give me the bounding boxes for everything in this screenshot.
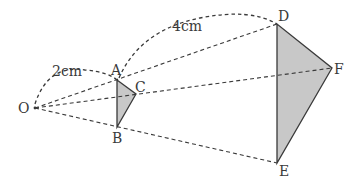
point-o bbox=[34, 107, 37, 110]
label-e: E bbox=[279, 164, 289, 178]
label-a: A bbox=[111, 63, 121, 77]
label-o: O bbox=[18, 101, 29, 115]
label-c: C bbox=[135, 80, 146, 94]
triangle-abc bbox=[117, 80, 136, 127]
diagram-canvas: O A B C D E F 2cm 4cm bbox=[0, 0, 363, 183]
measurement-ad: 4cm bbox=[172, 19, 202, 33]
ray-o-e bbox=[35, 108, 277, 163]
triangle-def bbox=[277, 24, 332, 163]
label-d: D bbox=[278, 9, 289, 23]
label-f: F bbox=[334, 62, 344, 76]
measurement-oa: 2cm bbox=[52, 64, 82, 78]
label-b: B bbox=[112, 131, 122, 145]
